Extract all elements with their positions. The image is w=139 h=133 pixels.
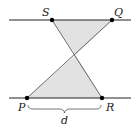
point-S <box>50 18 54 22</box>
diagram-canvas: S Q P R d <box>0 0 139 133</box>
distance-label-d: d <box>61 114 68 127</box>
lower-shaded-triangle <box>27 55 102 98</box>
label-S: S <box>42 6 50 19</box>
upper-shaded-triangle <box>52 20 112 55</box>
point-R <box>100 96 104 100</box>
distance-brace <box>28 105 101 113</box>
point-P <box>25 96 29 100</box>
label-P: P <box>17 101 26 114</box>
label-Q: Q <box>114 6 123 19</box>
label-R: R <box>105 101 114 114</box>
